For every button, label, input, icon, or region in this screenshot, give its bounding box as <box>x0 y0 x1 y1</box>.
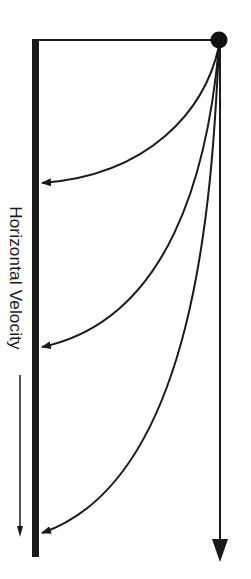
horizontal-velocity-label: Horizontal Velocity <box>5 206 25 350</box>
trajectory-3 <box>42 46 219 533</box>
ball <box>211 32 228 49</box>
down-arrowhead-icon <box>212 539 228 562</box>
trajectory-2 <box>42 46 219 347</box>
projectile-diagram <box>0 0 251 579</box>
axis-label: Horizontal Velocity <box>4 190 26 366</box>
direction-arrowhead-icon <box>17 526 23 537</box>
trajectory-1 <box>42 46 219 183</box>
wall <box>32 39 39 557</box>
